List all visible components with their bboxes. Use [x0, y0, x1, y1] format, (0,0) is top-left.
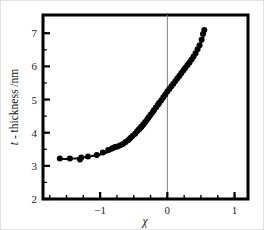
y-tick-label: 7: [32, 27, 38, 39]
x-axis-title: χ: [141, 215, 148, 228]
y-tick-label: 2: [32, 193, 38, 205]
y-tick-label: 4: [32, 127, 38, 139]
x-tick-label: 0: [165, 204, 171, 216]
data-point: [78, 155, 84, 161]
x-axis-tick-labels: −101: [94, 204, 237, 216]
x-tick-label: −1: [94, 204, 106, 216]
y-axis-title-rest: - thickness /nm: [8, 69, 20, 142]
y-tick-label: 3: [32, 160, 38, 172]
scatter-plot: −101 234567 χ t - thickness /nm: [1, 1, 264, 230]
plot-frame-rect: [43, 15, 248, 199]
data-point: [94, 152, 100, 158]
data-point: [67, 156, 73, 162]
y-axis-title: t - thickness /nm: [8, 69, 20, 145]
y-tick-label: 5: [32, 94, 38, 106]
data-point: [199, 37, 205, 43]
data-point: [57, 156, 63, 162]
plot-frame: [43, 15, 248, 199]
data-point: [201, 27, 207, 33]
y-axis-tick-labels: 234567: [32, 27, 38, 205]
data-point: [197, 42, 203, 48]
figure-container: −101 234567 χ t - thickness /nm: [0, 0, 264, 230]
x-tick-label: 1: [232, 204, 238, 216]
data-point: [100, 150, 106, 156]
y-tick-label: 6: [32, 60, 38, 72]
data-point: [85, 154, 91, 160]
